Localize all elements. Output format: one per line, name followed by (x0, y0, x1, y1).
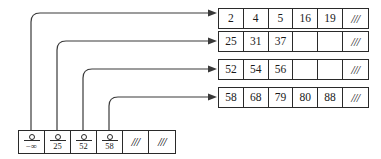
leaf-cell[interactable]: 58 (219, 88, 244, 107)
leaf-cell[interactable]: 25 (219, 32, 244, 51)
index-entry-0[interactable]: −∞ (19, 131, 45, 153)
leaf-node-1[interactable]: 2 4 5 16 19 /// (218, 8, 369, 29)
index-node[interactable]: −∞ 25 52 58 /// /// (18, 130, 176, 154)
leaf-next-pointer-cell[interactable]: /// (343, 60, 368, 79)
leaf-node-4[interactable]: 58 68 79 80 88 /// (218, 87, 369, 108)
leaf-cell[interactable]: 37 (269, 32, 294, 51)
pointer-circle-icon[interactable] (29, 134, 35, 140)
leaf-cell[interactable]: 2 (219, 9, 244, 28)
leaf-cell[interactable]: 79 (269, 88, 294, 107)
connector-3-arrowhead (208, 66, 217, 73)
leaf-cell-empty[interactable] (293, 60, 318, 79)
leaf-next-pointer-cell[interactable]: /// (343, 9, 368, 28)
index-key: 25 (53, 142, 62, 151)
leaf-cell[interactable]: 54 (244, 60, 269, 79)
pointer-circle-icon[interactable] (107, 134, 113, 140)
leaf-cell[interactable]: 56 (269, 60, 294, 79)
leaf-node-2[interactable]: 25 31 37 /// (218, 31, 369, 52)
leaf-cell[interactable]: 16 (293, 9, 318, 28)
leaf-cell[interactable]: 31 (244, 32, 269, 51)
index-entry-3[interactable]: 58 (97, 131, 123, 153)
index-key: 52 (79, 142, 88, 151)
index-entry-empty-4[interactable]: /// (123, 131, 149, 153)
leaf-cell-empty[interactable] (318, 32, 343, 51)
leaf-cell[interactable]: 4 (244, 9, 269, 28)
leaf-next-pointer-cell[interactable]: /// (343, 88, 368, 107)
leaf-cell[interactable]: 5 (269, 9, 294, 28)
leaf-cell[interactable]: 80 (293, 88, 318, 107)
leaf-cell[interactable]: 52 (219, 60, 244, 79)
pointer-circle-icon[interactable] (55, 134, 61, 140)
connector-1-arrowhead (208, 10, 217, 17)
connector-2-path (57, 41, 208, 133)
connector-3-path (83, 69, 208, 133)
leaf-node-3[interactable]: 52 54 56 /// (218, 59, 369, 80)
index-entry-2[interactable]: 52 (71, 131, 97, 153)
connector-4-arrowhead (208, 94, 217, 101)
leaf-next-pointer-cell[interactable]: /// (343, 32, 368, 51)
index-key: −∞ (26, 142, 37, 151)
connector-1-path (31, 13, 208, 133)
leaf-cell-empty[interactable] (318, 60, 343, 79)
diagram-canvas: 2 4 5 16 19 /// 25 31 37 /// 52 54 56 //… (0, 0, 381, 159)
connector-2-arrowhead (208, 38, 217, 45)
index-entry-empty-5[interactable]: /// (149, 131, 175, 153)
leaf-cell-empty[interactable] (293, 32, 318, 51)
index-key: 58 (105, 142, 114, 151)
leaf-cell[interactable]: 68 (244, 88, 269, 107)
pointer-circle-icon[interactable] (81, 134, 87, 140)
leaf-cell[interactable]: 19 (318, 9, 343, 28)
leaf-cell[interactable]: 88 (318, 88, 343, 107)
connector-4-path (109, 97, 208, 133)
index-entry-1[interactable]: 25 (45, 131, 71, 153)
